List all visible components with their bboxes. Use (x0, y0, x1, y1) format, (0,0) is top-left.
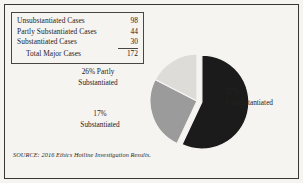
pie-label-partly-line2: Substantiated (56, 77, 140, 88)
pie-label-unsubstantiated-line2: Unsubstantiated (226, 97, 301, 108)
table-row-label: Substantiated Cases (17, 37, 77, 48)
table-row-total: Total Major Cases 172 (17, 48, 138, 60)
table-row-value: 44 (118, 27, 138, 38)
source-note: SOURCE: 2016 Ethics Hotline Investigatio… (13, 151, 151, 158)
table-row: Unsubstantiated Cases 98 (17, 16, 138, 27)
table-row-value: 98 (118, 16, 138, 27)
pie-label-partly-substantiated: 26% Partly Substantiated (56, 66, 140, 88)
summary-table: Unsubstantiated Cases 98 Partly Substant… (11, 12, 144, 64)
table-row: Partly Substantiated Cases 44 (17, 27, 138, 38)
table-row-label: Partly Substantiated Cases (17, 27, 97, 38)
table-total-label: Total Major Cases (17, 49, 81, 60)
table-total-value: 172 (118, 48, 138, 60)
pie-label-substantiated: 17% Substantiated (58, 108, 142, 130)
pie-label-partly-line1: 26% Partly (56, 66, 140, 77)
table-row-value: 30 (118, 37, 138, 48)
table-row: Substantiated Cases 30 (17, 37, 138, 48)
pie-label-substantiated-line1: 17% (58, 108, 142, 119)
table-row-label: Unsubstantiated Cases (17, 16, 85, 27)
pie-label-unsubstantiated: 57% Unsubstantiated (226, 86, 301, 108)
pie-label-substantiated-line2: Substantiated (58, 119, 142, 130)
pie-label-unsubstantiated-line1: 57% (226, 86, 301, 97)
figure-container: Unsubstantiated Cases 98 Partly Substant… (0, 0, 303, 183)
